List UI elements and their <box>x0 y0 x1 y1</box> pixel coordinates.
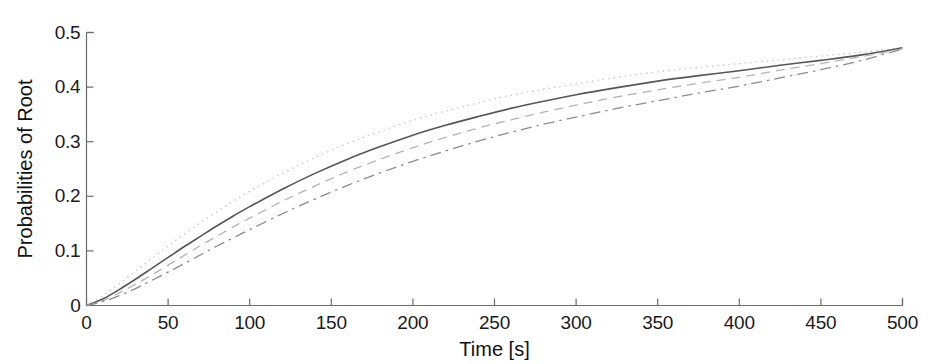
y-tick-label: 0.2 <box>55 185 81 207</box>
x-tick-label: 300 <box>561 312 592 334</box>
y-tick-label: 0.1 <box>55 240 81 262</box>
x-tick-label: 500 <box>887 312 918 334</box>
series-lines <box>87 48 903 306</box>
y-tick-label: 0.3 <box>55 131 81 153</box>
x-tick-label: 150 <box>316 312 347 334</box>
x-tick-label: 250 <box>479 312 510 334</box>
x-tick-label: 450 <box>805 312 836 334</box>
x-tick-label: 400 <box>724 312 755 334</box>
y-tick-label: 0 <box>70 295 80 317</box>
x-axis-title: Time [s] <box>459 338 529 361</box>
x-tick-label: 200 <box>397 312 428 334</box>
series-line-curve-3 <box>87 49 903 306</box>
axis-lines <box>87 33 903 306</box>
series-line-curve-2 <box>87 48 903 306</box>
y-tick-label: 0.5 <box>55 22 81 44</box>
plot-canvas <box>0 0 948 364</box>
y-axis-title: Probabilities of Root <box>14 80 37 259</box>
x-tick-label: 350 <box>642 312 673 334</box>
chart-figure: 050100150200250300350400450500 00.10.20.… <box>0 0 948 364</box>
x-tick-label: 100 <box>234 312 265 334</box>
x-tick-label: 50 <box>158 312 179 334</box>
x-tick-label: 0 <box>81 312 91 334</box>
series-line-curve-1 <box>87 48 903 306</box>
y-tick-label: 0.4 <box>55 76 81 98</box>
tick-marks <box>87 33 903 306</box>
series-line-curve-4 <box>87 49 903 306</box>
